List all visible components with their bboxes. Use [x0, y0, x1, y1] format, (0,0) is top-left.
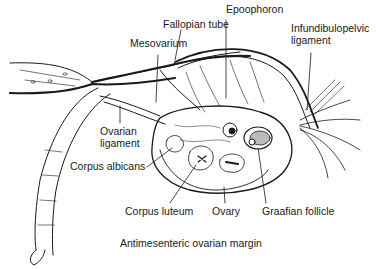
ovary-anatomy-diagram: Fallopian tube Epoophoron Infundibulopel… [0, 0, 383, 269]
label-corpus-albicans: Corpus albicans [70, 160, 145, 172]
label-infundibulopelvic: Infundibulopelvic [291, 22, 369, 34]
label-mesovarium: Mesovarium [130, 37, 187, 49]
label-epoophoron: Epoophoron [226, 3, 283, 15]
label-corpus-luteum: Corpus luteum [125, 205, 193, 217]
label-ovarian-ligament: ligament [100, 137, 140, 149]
label-fallopian-tube: Fallopian tube [163, 18, 229, 30]
label-antimesenteric-ovarian-margin: Antimesenteric ovarian margin [120, 237, 262, 249]
label-ovarian: Ovarian [100, 125, 137, 137]
label-ligament-infundibulopelvic: ligament [291, 34, 331, 46]
label-ovary: Ovary [212, 205, 240, 217]
label-graafian-follicle: Graafian follicle [262, 205, 334, 217]
